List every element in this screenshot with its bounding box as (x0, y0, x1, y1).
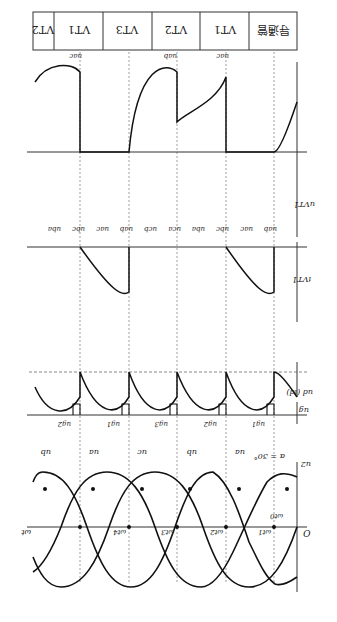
conduction-cell-5: VT2 (32, 23, 55, 36)
svg-text:uba: uba (192, 225, 205, 233)
svg-text:ubc: ubc (72, 225, 85, 233)
svg-text:uac: uac (69, 52, 82, 60)
alpha-label: α = 30° (254, 452, 285, 461)
svg-text:ug1: ug1 (252, 420, 265, 428)
svg-text:ωt0: ωt0 (269, 512, 283, 520)
thyristor-voltage-panel: uVT1 uab uac ubc uba uca ucb uab uac ubc… (27, 52, 315, 237)
time-axis-label: ωt (20, 528, 31, 537)
conduction-cell-3: VT3 (116, 23, 139, 36)
svg-text:ua: ua (89, 448, 99, 457)
svg-text:ug3: ug3 (154, 420, 168, 428)
svg-text:uab: uab (263, 225, 277, 233)
svg-text:ua: ua (235, 448, 245, 457)
conduction-cell-2: VT2 (165, 23, 188, 36)
svg-text:uc: uc (137, 448, 147, 457)
origin-label: O (302, 528, 310, 538)
svg-text:ug1: ug1 (107, 420, 120, 428)
svg-text:ubc: ubc (216, 225, 229, 233)
svg-text:ug2: ug2 (203, 420, 217, 428)
svg-text:ucb: ucb (144, 225, 157, 233)
svg-text:uVT1: uVT1 (294, 200, 315, 209)
svg-text:ud (id): ud (id) (286, 388, 313, 397)
supply-voltage-panel: O ωt u2 α = 30° ωt0 ωt1 ωt2 ωt3 ωt4 ua u… (20, 448, 311, 592)
svg-text:uac: uac (240, 225, 253, 233)
svg-text:uac: uac (216, 52, 229, 60)
svg-text:uac: uac (96, 225, 109, 233)
svg-text:uca: uca (168, 225, 181, 233)
svg-text:iVT1: iVT1 (292, 275, 311, 284)
svg-text:ωt4: ωt4 (113, 528, 126, 536)
thyristor-current-panel: iVT1 (27, 242, 311, 322)
conduction-table: 导通管 VT1 VT2 VT3 VT1 VT2 (32, 12, 297, 50)
svg-text:ωt1: ωt1 (258, 528, 271, 536)
svg-text:ub: ub (41, 448, 51, 457)
svg-text:uab: uab (163, 52, 177, 60)
conduction-table-title: 导通管 (257, 23, 290, 37)
supply-ylabel: u2 (301, 460, 311, 469)
rectifier-waveform-figure: 导通管 VT1 VT2 VT3 VT1 VT2 O ωt u2 α = 30° … (0, 0, 337, 622)
conduction-cell-4: VT1 (68, 23, 91, 36)
commutation-guides (80, 50, 274, 582)
svg-text:ub: ub (187, 448, 197, 457)
svg-text:ωt3: ωt3 (160, 528, 174, 536)
svg-text:ug: ug (299, 406, 309, 415)
svg-text:uba: uba (48, 225, 61, 233)
svg-text:ωt2: ωt2 (209, 528, 223, 536)
svg-text:ug2: ug2 (57, 420, 71, 428)
conduction-cell-1: VT1 (214, 23, 237, 36)
svg-text:uab: uab (119, 225, 133, 233)
